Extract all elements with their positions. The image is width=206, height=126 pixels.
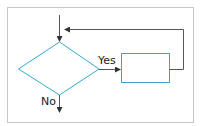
process-box bbox=[122, 54, 170, 83]
no-label: No bbox=[41, 96, 56, 107]
yes-label: Yes bbox=[98, 55, 116, 66]
